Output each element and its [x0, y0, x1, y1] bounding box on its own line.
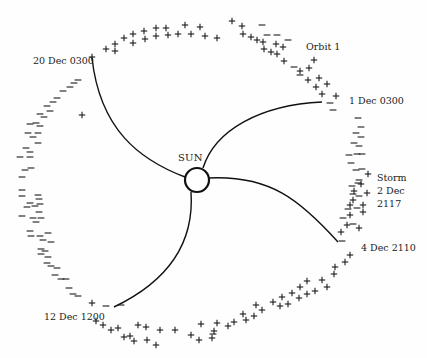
plus-polarity-icon	[351, 188, 357, 194]
plus-polarity-icon	[214, 320, 220, 326]
plus-polarity-icon	[131, 338, 137, 344]
plus-polarity-icon	[331, 271, 337, 277]
plus-polarity-icon	[259, 307, 265, 313]
plus-polarity-icon	[261, 46, 267, 52]
sun-icon	[185, 168, 209, 192]
plus-polarity-icon	[229, 18, 235, 24]
plus-polarity-icon	[248, 34, 254, 40]
solar-sector-diagram: SUN Orbit 1 1 Dec 0300 20 Dec 0300 4 Dec…	[0, 0, 427, 358]
plus-polarity-icon	[240, 31, 246, 37]
plus-polarity-icon	[324, 81, 330, 87]
plus-polarity-icon	[316, 75, 322, 81]
sun-label: SUN	[178, 152, 203, 164]
plus-polarity-icon	[214, 35, 220, 41]
plus-polarity-icon	[306, 65, 312, 71]
plus-polarity-icon	[142, 36, 148, 42]
plus-polarity-icon	[209, 335, 215, 341]
plus-polarity-icon	[172, 327, 178, 333]
plus-polarity-icon	[196, 337, 202, 343]
plus-polarity-icon	[311, 57, 317, 63]
plus-polarity-icon	[342, 259, 348, 265]
plus-polarity-icon	[121, 334, 127, 340]
plus-polarity-icon	[365, 171, 371, 177]
plus-polarity-icon	[243, 317, 249, 323]
plus-polarity-icon	[112, 48, 118, 54]
plus-polarity-icon	[115, 325, 121, 331]
plus-polarity-icon	[157, 327, 163, 333]
plus-polarity-icon	[79, 112, 85, 118]
date-label-20-dec: 20 Dec 0300	[33, 55, 94, 67]
plus-polarity-icon	[240, 311, 246, 317]
plus-polarity-icon	[324, 284, 330, 290]
plus-polarity-icon	[277, 303, 283, 309]
plus-polarity-icon	[285, 301, 291, 307]
sector-boundary-line	[114, 192, 191, 307]
plus-polarity-icon	[239, 23, 245, 29]
plus-polarity-icon	[112, 41, 118, 47]
plus-polarity-icon	[89, 300, 95, 306]
plus-polarity-icon	[198, 321, 204, 327]
storm-label-line-3: 2117	[377, 197, 407, 210]
plus-polarity-icon	[254, 37, 260, 43]
plus-polarity-icon	[313, 84, 319, 90]
plus-polarity-icon	[347, 252, 353, 258]
plus-polarity-icon	[281, 58, 287, 64]
diagram-canvas	[0, 0, 427, 358]
storm-label-line-1: Storm	[377, 171, 407, 184]
plus-polarity-icon	[304, 278, 310, 284]
plus-polarity-icon	[127, 333, 133, 339]
sector-boundary-line	[203, 102, 322, 168]
plus-polarity-icon	[274, 51, 280, 57]
plus-polarity-icon	[333, 93, 339, 99]
plus-polarity-icon	[347, 202, 353, 208]
plus-polarity-icon	[251, 313, 257, 319]
storm-label-line-2: 2 Dec	[377, 184, 407, 197]
plus-polarity-icon	[338, 229, 344, 235]
orbit-label: Orbit 1	[306, 41, 340, 53]
storm-label: Storm 2 Dec 2117	[377, 171, 407, 210]
date-label-1-dec: 1 Dec 0300	[349, 95, 404, 107]
plus-polarity-icon	[296, 295, 302, 301]
plus-polarity-icon	[297, 68, 303, 74]
plus-polarity-icon	[270, 299, 276, 305]
plus-polarity-icon	[358, 181, 364, 187]
plus-polarity-icon	[144, 337, 150, 343]
plus-polarity-icon	[211, 328, 217, 334]
plus-polarity-icon	[305, 77, 311, 83]
plus-polarity-icon	[268, 49, 274, 55]
plus-polarity-icon	[289, 290, 295, 296]
plus-polarity-icon	[360, 202, 366, 208]
plus-polarity-icon	[360, 209, 366, 215]
plus-polarity-icon	[188, 31, 194, 37]
plus-polarity-icon	[347, 212, 353, 218]
plus-polarity-icon	[130, 40, 136, 46]
plus-polarity-icon	[153, 25, 159, 31]
plus-polarity-icon	[182, 22, 188, 28]
plus-polarity-icon	[356, 225, 362, 231]
plus-polarity-icon	[202, 33, 208, 39]
sector-boundary-line	[209, 178, 338, 242]
plus-polarity-icon	[188, 332, 194, 338]
plus-polarity-icon	[260, 39, 266, 45]
plus-polarity-icon	[153, 33, 159, 39]
plus-polarity-icon	[344, 222, 350, 228]
plus-polarity-icon	[130, 31, 136, 37]
plus-polarity-icon	[304, 291, 310, 297]
date-label-4-dec: 4 Dec 2110	[361, 242, 416, 254]
plus-polarity-icon	[165, 32, 171, 38]
sector-boundary-line	[92, 58, 185, 177]
sector-boundary-lines	[92, 58, 338, 307]
plus-polarity-icon	[135, 322, 141, 328]
plus-polarity-icon	[350, 197, 356, 203]
date-label-12-dec: 12 Dec 1200	[44, 311, 105, 323]
plus-polarity-icon	[175, 31, 181, 37]
plus-polarity-icon	[103, 46, 109, 52]
plus-polarity-icon	[319, 277, 325, 283]
plus-polarity-icon	[225, 323, 231, 329]
plus-polarity-icon	[279, 294, 285, 300]
plus-polarity-icon	[141, 28, 147, 34]
plus-polarity-icon	[319, 91, 325, 97]
plus-polarity-icon	[273, 41, 279, 47]
plus-polarity-icon	[231, 319, 237, 325]
plus-polarity-icon	[163, 25, 169, 31]
